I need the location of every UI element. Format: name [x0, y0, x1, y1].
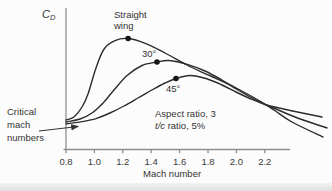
x-tick-label: 1.0 — [88, 156, 101, 167]
critical-mach-line1: Critical — [7, 106, 36, 117]
cd-subscript: D — [50, 13, 55, 22]
drag-curves-plot: 0.81.01.21.41.61.82.02.2 — [0, 0, 332, 191]
drag-vs-mach-figure: 0.81.01.21.41.61.82.02.2 CD Straightwing… — [0, 0, 332, 191]
critical-mach-line2: mach — [7, 119, 30, 130]
x-tick-label: 1.6 — [173, 156, 186, 167]
x-tick-label: 2.2 — [258, 156, 271, 167]
marker-dot-30-sweep — [154, 59, 160, 65]
critical-mach-label: Criticalmachnumbers — [7, 105, 44, 144]
marker-dot-45-sweep — [173, 76, 179, 82]
y-axis-label-cd: CD — [42, 9, 55, 24]
x-tick-label: 0.8 — [59, 156, 72, 167]
x-tick-label: 1.8 — [201, 156, 214, 167]
straight-wing-label: Straightwing — [114, 10, 147, 31]
page-edge-strip — [0, 183, 332, 191]
marker-dot-straight-wing — [125, 36, 131, 42]
straight-wing-label-line1: Straight — [114, 9, 147, 20]
sweep-30-label: 30° — [142, 49, 156, 60]
sweep-45-label: 45° — [166, 84, 180, 95]
aspect-ratio-note: Aspect ratio, 3 — [155, 108, 216, 119]
critical-mach-line3: numbers — [7, 132, 44, 143]
wing-parameters-annotation: Aspect ratio, 3t/c ratio, 5% — [155, 108, 216, 132]
x-tick-label: 1.2 — [116, 156, 129, 167]
cd-symbol: C — [42, 8, 50, 20]
critical-mach-arrow — [39, 127, 78, 132]
tc-ratio-symbol: t/c — [155, 120, 165, 131]
axes-and-curves: 0.81.01.21.41.61.82.02.2 — [59, 8, 327, 167]
x-axis-label: Mach number — [143, 169, 201, 180]
straight-wing-label-line2: wing — [114, 20, 134, 31]
x-tick-label: 2.0 — [230, 156, 243, 167]
x-tick-label: 1.4 — [145, 156, 158, 167]
tc-ratio-note: ratio, 5% — [165, 120, 205, 131]
